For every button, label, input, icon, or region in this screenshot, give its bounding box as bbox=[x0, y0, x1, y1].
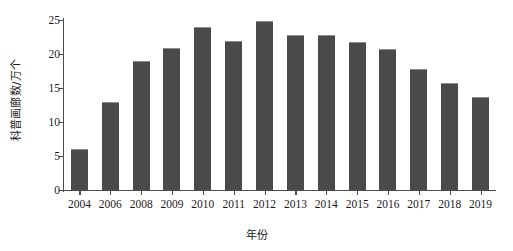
x-tick-mark bbox=[141, 190, 142, 195]
x-tick-label: 2014 bbox=[315, 198, 338, 210]
x-tick-mark bbox=[265, 190, 266, 195]
bar bbox=[133, 61, 150, 190]
y-axis-title: 科普画廊数/万个 bbox=[0, 0, 30, 200]
x-tick-label: 2019 bbox=[469, 198, 492, 210]
y-tick-label: 25 bbox=[49, 14, 61, 26]
x-tick-mark bbox=[234, 190, 235, 195]
bar-chart: 科普画廊数/万个 0510152025 20042006200820092010… bbox=[0, 0, 513, 251]
x-tick-label: 2013 bbox=[284, 198, 307, 210]
x-tick-label: 2012 bbox=[253, 198, 276, 210]
bar bbox=[194, 27, 211, 190]
bar-slot bbox=[249, 20, 280, 190]
x-tick-mark bbox=[388, 190, 389, 195]
x-tick-label: 2008 bbox=[130, 198, 153, 210]
bar bbox=[225, 41, 242, 190]
y-tick-label: 0 bbox=[54, 184, 60, 196]
bar-slot bbox=[342, 20, 373, 190]
x-tick-label: 2018 bbox=[438, 198, 461, 210]
y-axis-title-label: 科普画廊数/万个 bbox=[7, 59, 23, 141]
y-tick-label: 5 bbox=[54, 150, 60, 162]
x-tick-label: 2006 bbox=[99, 198, 122, 210]
y-tick-label: 15 bbox=[49, 82, 61, 94]
x-tick-label: 2017 bbox=[407, 198, 430, 210]
plot-area: 0510152025 20042006200820092010201120122… bbox=[64, 20, 496, 190]
bar bbox=[256, 21, 273, 190]
x-tick-label: 2004 bbox=[68, 198, 91, 210]
x-tick-mark bbox=[172, 190, 173, 195]
x-tick-mark bbox=[450, 190, 451, 195]
bar bbox=[379, 49, 396, 190]
x-axis-title: 年份 bbox=[0, 226, 513, 242]
bar bbox=[472, 97, 489, 190]
bar bbox=[102, 102, 119, 190]
bar bbox=[287, 35, 304, 190]
bar-slot bbox=[218, 20, 249, 190]
bar-slot bbox=[187, 20, 218, 190]
x-tick-mark bbox=[481, 190, 482, 195]
y-tick-label: 20 bbox=[49, 48, 61, 60]
x-tick-mark bbox=[419, 190, 420, 195]
bar-slot bbox=[311, 20, 342, 190]
x-tick-mark bbox=[110, 190, 111, 195]
x-tick-label: 2010 bbox=[191, 198, 214, 210]
bar-slot bbox=[95, 20, 126, 190]
bar-slot bbox=[373, 20, 404, 190]
bar-slot bbox=[126, 20, 157, 190]
bar-slot bbox=[64, 20, 95, 190]
bar-slot bbox=[434, 20, 465, 190]
bar bbox=[318, 35, 335, 190]
bar bbox=[441, 83, 458, 190]
bar-slot bbox=[157, 20, 188, 190]
bar bbox=[71, 149, 88, 190]
x-tick-mark bbox=[326, 190, 327, 195]
x-tick-mark bbox=[203, 190, 204, 195]
bar-slot bbox=[280, 20, 311, 190]
x-tick-mark bbox=[295, 190, 296, 195]
x-tick-mark bbox=[79, 190, 80, 195]
x-axis-title-label: 年份 bbox=[246, 229, 268, 242]
bar-slot bbox=[403, 20, 434, 190]
x-tick-mark bbox=[357, 190, 358, 195]
x-tick-label: 2015 bbox=[346, 198, 369, 210]
bar-slot bbox=[465, 20, 496, 190]
bar bbox=[349, 42, 366, 190]
x-tick-label: 2016 bbox=[377, 198, 400, 210]
x-tick-label: 2009 bbox=[161, 198, 184, 210]
y-tick-label: 10 bbox=[49, 116, 61, 128]
x-tick-label: 2011 bbox=[222, 198, 245, 210]
bar bbox=[410, 69, 427, 190]
bar bbox=[163, 48, 180, 190]
